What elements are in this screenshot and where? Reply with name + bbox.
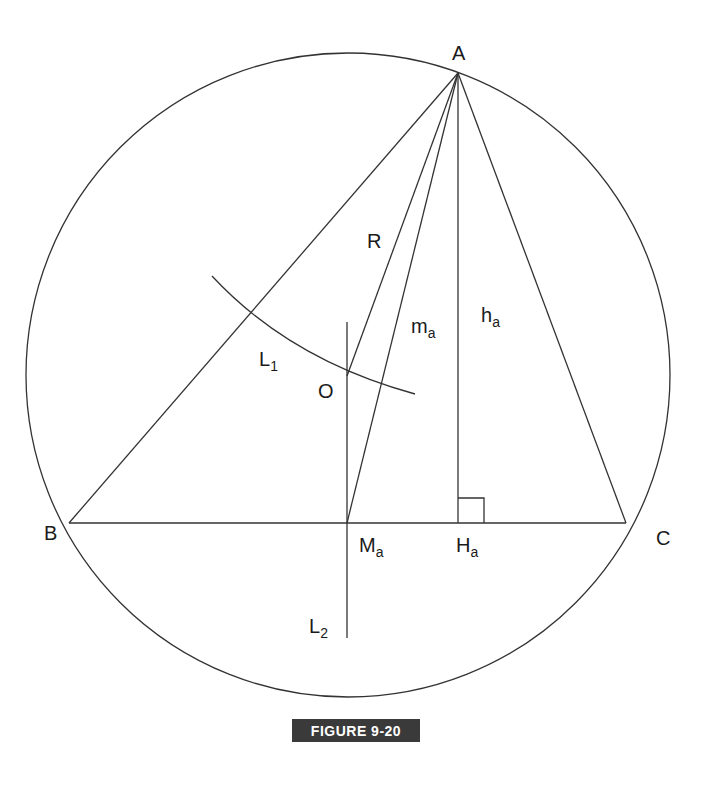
label-l1: L1	[259, 348, 278, 374]
arc-l1	[212, 276, 415, 394]
geometry-diagram: A B C O Ma Ha R ma ha L1 L2	[0, 0, 712, 788]
label-b: B	[44, 522, 57, 544]
label-ma: Ma	[359, 534, 384, 560]
label-l2: L2	[309, 615, 328, 641]
label-c: C	[656, 527, 670, 549]
side-ac	[458, 73, 626, 523]
label-a: A	[452, 42, 466, 64]
label-r: R	[367, 230, 381, 252]
median-ama	[347, 73, 458, 523]
label-ha: Ha	[456, 534, 478, 560]
radius-ao	[347, 73, 458, 376]
right-angle-marker	[458, 498, 484, 523]
label-ha-altitude: ha	[481, 304, 500, 330]
label-ma-median: ma	[411, 315, 436, 341]
figure-caption: FIGURE 9-20	[292, 719, 420, 742]
label-o: O	[318, 380, 334, 402]
